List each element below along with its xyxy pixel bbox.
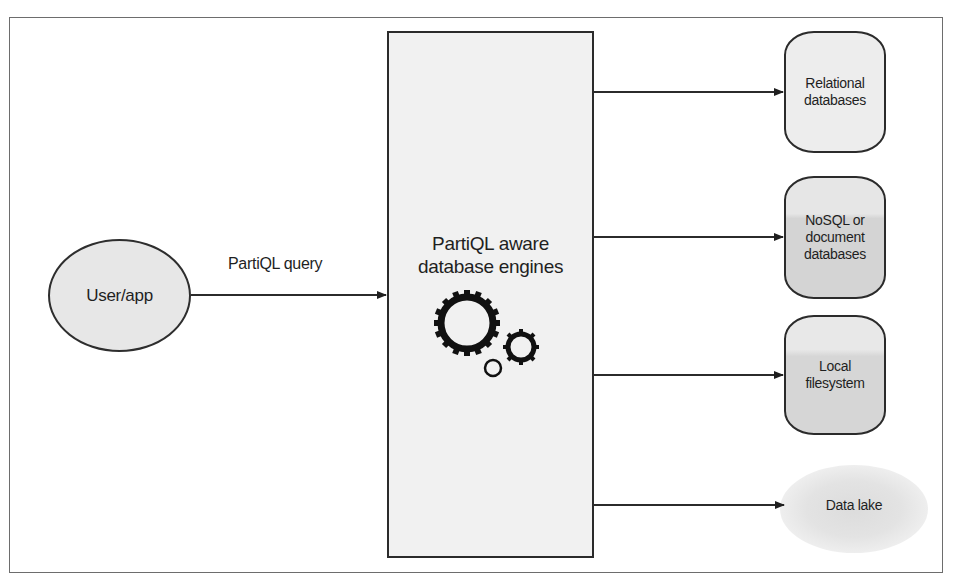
gears-icon <box>434 290 539 376</box>
connectors <box>0 0 953 585</box>
diagram-canvas: PartiQL aware database engines User/app … <box>0 0 953 585</box>
